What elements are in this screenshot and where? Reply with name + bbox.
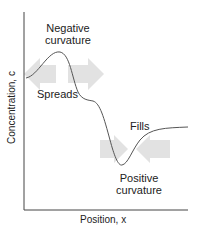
negative-label-line2: curvature: [38, 34, 98, 46]
positive-label-line1: Positive: [111, 172, 167, 184]
fills-right-arrow: [100, 135, 128, 163]
spreads-left-arrow: [24, 58, 56, 90]
negative-label-line1: Negative: [38, 22, 98, 34]
fills-label: Fills: [130, 120, 150, 132]
negative-curvature-label: Negative curvature: [38, 22, 98, 46]
x-axis-label: Position, x: [80, 214, 126, 225]
diagram-canvas: [0, 0, 200, 228]
positive-label-line2: curvature: [111, 184, 167, 196]
spreads-label: Spreads: [37, 88, 78, 100]
positive-curvature-label: Positive curvature: [111, 172, 167, 196]
y-axis-label: Concentration, c: [6, 63, 17, 153]
spreads-right-arrow: [68, 58, 104, 90]
